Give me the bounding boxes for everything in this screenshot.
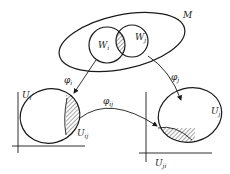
map-phi-i-arrow [74,60,96,93]
label-wi: Wi [98,40,109,51]
label-uji: Uji [155,158,166,170]
transition-phi-ij-arrow [80,108,157,126]
label-phi-i: φi [64,75,72,86]
manifold-label: M [182,10,193,20]
label-uij: Uij [77,128,89,140]
label-phi-ij: φij [103,96,113,108]
label-wj: Wj [135,32,146,44]
overlap-region-uji [155,128,195,148]
manifold-chart-diagram: M Wi Wj φi φj Ui Uij φij Uj Uji [0,0,230,174]
label-uj: Uj [211,106,221,118]
